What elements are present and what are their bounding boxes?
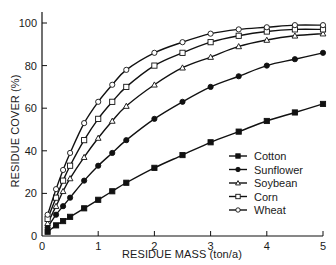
circle-marker-icon — [96, 99, 101, 104]
circle-marker-icon — [236, 74, 241, 79]
circle-marker-icon — [124, 67, 129, 72]
square-marker-icon — [152, 63, 157, 68]
circle-marker-icon — [124, 138, 129, 143]
square-marker-icon — [236, 129, 241, 134]
series-line — [48, 53, 323, 228]
square-marker-icon — [236, 154, 240, 158]
square-marker-icon — [236, 194, 240, 198]
square-marker-icon — [208, 40, 213, 45]
square-marker-icon — [152, 165, 157, 170]
square-marker-icon — [82, 206, 87, 211]
circle-marker-icon — [292, 57, 297, 62]
circle-marker-icon — [60, 204, 65, 209]
y-axis-title: RESIDUE COVER (%) — [9, 75, 21, 188]
circle-marker-icon — [110, 150, 115, 155]
square-marker-icon — [292, 110, 297, 115]
circle-marker-icon — [68, 195, 73, 200]
square-marker-icon — [320, 101, 325, 106]
circle-marker-icon — [264, 25, 269, 30]
legend-label: Sunflower — [254, 164, 303, 176]
circle-marker-icon — [45, 212, 50, 217]
y-tick-label: 80 — [25, 60, 37, 72]
legend-label: Wheat — [254, 204, 286, 216]
square-marker-icon — [96, 197, 101, 202]
circle-marker-icon — [152, 116, 157, 121]
circle-marker-icon — [82, 121, 87, 126]
series-line — [48, 29, 323, 219]
square-marker-icon — [236, 33, 241, 38]
circle-marker-icon — [236, 208, 240, 212]
square-marker-icon — [60, 218, 65, 223]
x-axis-title: RESIDUE MASS (ton/a) — [122, 248, 242, 260]
circle-marker-icon — [320, 23, 325, 28]
circle-marker-icon — [60, 167, 65, 172]
square-marker-icon — [208, 140, 213, 145]
y-tick-label: 60 — [25, 102, 37, 114]
circle-marker-icon — [208, 31, 213, 36]
legend-item-corn: Corn — [229, 191, 278, 203]
square-marker-icon — [110, 189, 115, 194]
square-marker-icon — [124, 84, 129, 89]
square-marker-icon — [96, 116, 101, 121]
x-tick-label: 1 — [95, 240, 101, 252]
triangle-marker-icon — [60, 188, 66, 193]
x-tick-label: 0 — [39, 240, 45, 252]
square-marker-icon — [124, 180, 129, 185]
series-soybean — [45, 31, 326, 226]
square-marker-icon — [60, 178, 65, 183]
series-corn — [45, 27, 326, 222]
square-marker-icon — [82, 138, 87, 143]
circle-marker-icon — [96, 163, 101, 168]
circle-marker-icon — [180, 40, 185, 45]
square-marker-icon — [180, 152, 185, 157]
y-tick-label: 20 — [25, 187, 37, 199]
circle-marker-icon — [236, 27, 241, 32]
legend-label: Soybean — [254, 177, 297, 189]
square-marker-icon — [264, 118, 269, 123]
circle-marker-icon — [53, 187, 58, 192]
legend-item-wheat: Wheat — [229, 204, 286, 216]
circle-marker-icon — [82, 178, 87, 183]
x-tick-label: 4 — [264, 240, 270, 252]
legend-label: Cotton — [254, 150, 286, 162]
legend-item-cotton: Cotton — [229, 150, 286, 162]
square-marker-icon — [68, 163, 73, 168]
circle-marker-icon — [68, 150, 73, 155]
legend-item-soybean: Soybean — [229, 177, 297, 189]
circle-marker-icon — [236, 167, 240, 171]
circle-marker-icon — [320, 50, 325, 55]
circle-marker-icon — [208, 84, 213, 89]
square-marker-icon — [68, 214, 73, 219]
circle-marker-icon — [264, 63, 269, 68]
circle-marker-icon — [152, 50, 157, 55]
circle-marker-icon — [292, 23, 297, 28]
circle-marker-icon — [180, 99, 185, 104]
circle-marker-icon — [53, 212, 58, 217]
square-marker-icon — [110, 99, 115, 104]
residue-cover-chart: 020406080100 012345 CottonSunflowerSoybe… — [0, 0, 336, 265]
legend-item-sunflower: Sunflower — [229, 164, 303, 176]
plot-series — [45, 23, 326, 235]
x-tick-label: 5 — [320, 240, 326, 252]
y-tick-label: 40 — [25, 145, 37, 157]
triangle-marker-icon — [236, 181, 241, 185]
legend: CottonSunflowerSoybeanCornWheat — [229, 150, 303, 216]
y-tick-label: 0 — [31, 230, 37, 242]
legend-label: Corn — [254, 191, 278, 203]
y-axis: 020406080100 — [19, 12, 47, 242]
square-marker-icon — [180, 50, 185, 55]
circle-marker-icon — [110, 82, 115, 87]
y-tick-label: 100 — [19, 17, 37, 29]
square-marker-icon — [53, 223, 58, 228]
